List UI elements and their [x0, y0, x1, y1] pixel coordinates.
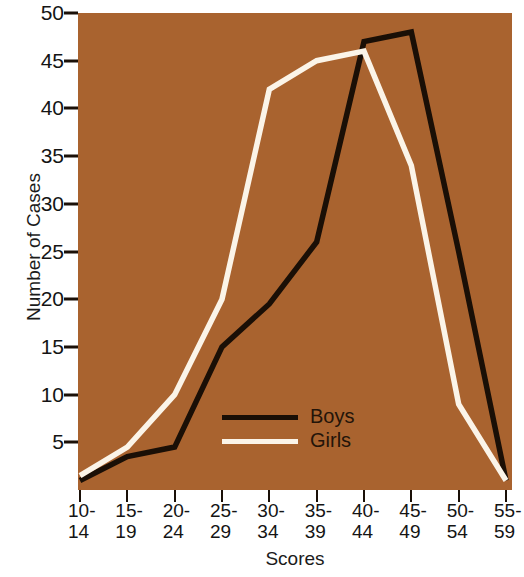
- y-axis-tick-label: 30: [41, 192, 64, 216]
- y-axis-tick-mark: [64, 250, 78, 253]
- x-axis-tick-label: 15-19: [115, 500, 167, 542]
- legend-swatch-boys: [222, 415, 298, 420]
- y-axis-tick-mark: [64, 202, 78, 205]
- y-axis-tick-label: 20: [41, 287, 64, 311]
- x-axis-tick-label: 30-34: [257, 500, 309, 542]
- x-axis-tick-label: 55-59: [494, 500, 524, 542]
- y-axis-tick-mark: [64, 441, 78, 444]
- y-axis-tick-label: 10: [41, 383, 64, 407]
- x-axis-tick-label: 25-29: [210, 500, 262, 542]
- y-axis-tick-mark: [64, 107, 78, 110]
- x-axis-tick-label: 10-14: [68, 500, 120, 542]
- y-axis-tick-mark: [64, 298, 78, 301]
- y-axis-tick-mark: [64, 59, 78, 62]
- x-axis-tick-label: 20-24: [163, 500, 215, 542]
- legend-item-boys[interactable]: Boys: [222, 406, 382, 430]
- legend-label: Boys: [310, 405, 354, 428]
- x-axis-tick-label: 50-54: [447, 500, 499, 542]
- y-axis-tick-mark: [64, 12, 78, 15]
- y-axis-tick-label: 40: [41, 96, 64, 120]
- chart-figure: Number of Cases 5101520253035404550 10-1…: [0, 0, 524, 577]
- y-axis-tick-label: 50: [41, 1, 64, 25]
- y-axis-tick-mark: [64, 345, 78, 348]
- y-axis-tick-mark: [64, 393, 78, 396]
- y-axis-tick-label: 5: [52, 430, 64, 454]
- chart-legend: BoysGirls: [222, 406, 382, 454]
- x-axis-tick-label: 35-39: [305, 500, 357, 542]
- y-axis-tick-mark: [64, 155, 78, 158]
- legend-item-girls[interactable]: Girls: [222, 430, 382, 454]
- y-axis-tick-label: 15: [41, 335, 64, 359]
- y-axis-tick-label: 25: [41, 240, 64, 264]
- y-axis-tick-label: 35: [41, 144, 64, 168]
- legend-swatch-girls: [222, 439, 298, 444]
- y-axis-tick-label: 45: [41, 49, 64, 73]
- legend-label: Girls: [310, 429, 351, 452]
- x-axis-tick-label: 40-44: [352, 500, 404, 542]
- x-axis-title: Scores: [78, 548, 512, 570]
- x-axis-tick-label: 45-49: [399, 500, 451, 542]
